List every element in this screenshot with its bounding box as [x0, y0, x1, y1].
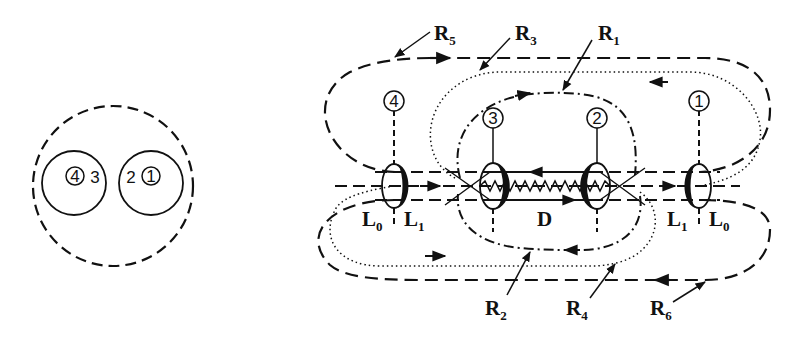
region-right-L1: L1	[667, 207, 688, 234]
region-right-L0: L0	[709, 207, 730, 234]
loop-r1	[457, 93, 635, 178]
label-4: 4	[70, 167, 79, 186]
region-D: D	[537, 207, 552, 231]
label-R5: R5	[434, 21, 456, 48]
coil-1: 1	[685, 91, 712, 228]
coil-label-4: 4	[389, 92, 398, 111]
coil-2: 2	[580, 108, 610, 232]
loop-r5	[325, 58, 770, 172]
field-loops-figure: 4 3 2 1 L0	[318, 21, 770, 323]
label-R2: R2	[485, 296, 507, 323]
coil-label-2: 2	[592, 109, 601, 128]
label-R3: R3	[515, 21, 537, 48]
coil-label-3: 3	[488, 109, 497, 128]
region-left-L0: L0	[362, 207, 383, 234]
label-R1: R1	[598, 21, 620, 48]
label-R4: R4	[566, 296, 588, 323]
outer-dashed-circle	[33, 106, 193, 266]
label-R6: R6	[650, 296, 672, 323]
diagram-canvas: 4 3 2 1	[0, 0, 790, 339]
label-2: 2	[126, 168, 135, 187]
coil-3: 3	[480, 108, 510, 232]
loop-r3	[430, 72, 760, 186]
label-1: 1	[146, 167, 155, 186]
region-left-L1: L1	[404, 207, 425, 234]
coil-label-1: 1	[694, 92, 703, 111]
cross-section-figure: 4 3 2 1	[33, 106, 193, 266]
label-3: 3	[90, 168, 99, 187]
